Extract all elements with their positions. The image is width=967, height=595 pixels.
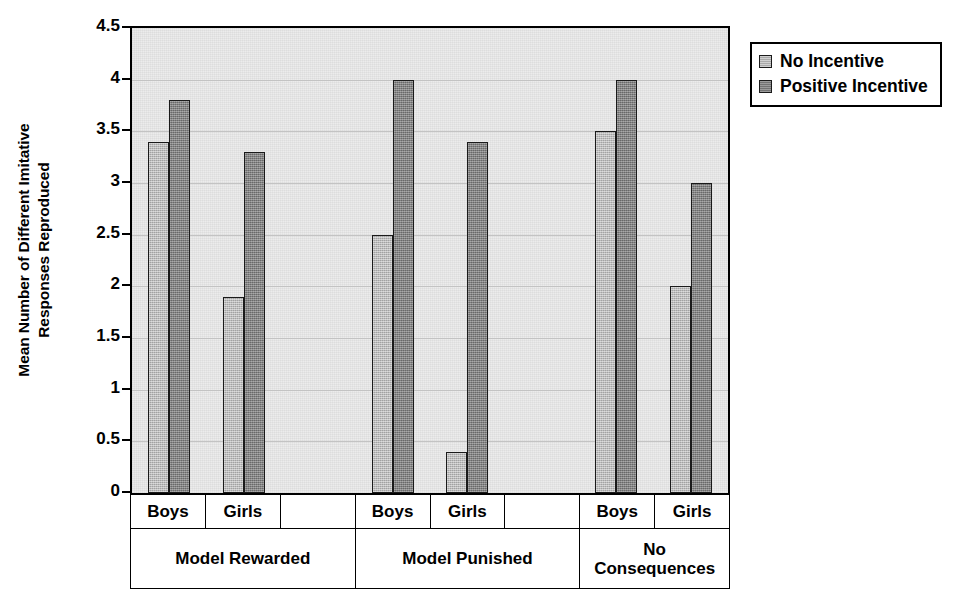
gridline (132, 131, 728, 132)
y-axis-tick-label: 2.5 (76, 223, 120, 243)
y-axis-tick-mark (122, 129, 130, 131)
bar (446, 452, 467, 493)
y-axis-tick-label: 3.5 (76, 119, 120, 139)
x-axis-spacer-cell (280, 494, 355, 529)
y-axis-title-line-1: Mean Number of Different Imitative (15, 123, 32, 376)
x-axis-subcategory-row: BoysGirlsBoysGirlsBoysGirls (131, 494, 730, 529)
x-axis-category-table: BoysGirlsBoysGirlsBoysGirls Model Reward… (130, 493, 730, 589)
y-axis-tick-mark (122, 491, 130, 493)
y-axis-tick-label: 1.5 (76, 326, 120, 346)
x-axis-group-cell: NoConsequences (580, 529, 730, 589)
x-axis-subcategory-cell: Boys (580, 494, 655, 529)
bar (691, 183, 712, 493)
y-axis-tick-label: 3 (76, 171, 120, 191)
bar (244, 152, 265, 493)
y-axis-tick-mark (122, 336, 130, 338)
bar (223, 297, 244, 493)
y-axis-tick-labels: 4.543.532.521.510.50 (76, 0, 120, 595)
legend-swatch-icon-no-incentive (759, 55, 772, 68)
gridline (132, 338, 728, 339)
y-axis-tick-label: 4.5 (76, 16, 120, 36)
legend-item-positive-incentive: Positive Incentive (759, 74, 928, 99)
x-axis-subcategory-cell: Girls (205, 494, 280, 529)
y-axis-tick-label: 2 (76, 274, 120, 294)
bar (616, 80, 637, 493)
x-axis-spacer-cell (505, 494, 580, 529)
legend-label-no-incentive: No Incentive (780, 51, 884, 72)
bar-chart-figure: Mean Number of Different Imitative Respo… (0, 0, 967, 595)
bar (169, 100, 190, 493)
y-axis-tick-label: 1 (76, 378, 120, 398)
gridline (132, 235, 728, 236)
y-axis-tick-mark (122, 78, 130, 80)
plot-area (130, 26, 730, 495)
y-axis-tick-label: 0.5 (76, 429, 120, 449)
x-axis-group-label-line-1: No (580, 540, 729, 559)
x-axis-subcategory-cell: Girls (430, 494, 505, 529)
bar (595, 131, 616, 493)
bar (393, 80, 414, 493)
legend-item-no-incentive: No Incentive (759, 49, 928, 74)
y-axis-tick-mark (122, 233, 130, 235)
y-axis-tick-mark (122, 388, 130, 390)
chart-legend: No Incentive Positive Incentive (750, 42, 942, 107)
gridline (132, 286, 728, 287)
gridline (132, 80, 728, 81)
x-axis-group-cell: Model Punished (355, 529, 580, 589)
x-axis-group-cell: Model Rewarded (131, 529, 356, 589)
gridline (132, 441, 728, 442)
x-axis-subcategory-cell: Boys (355, 494, 430, 529)
y-axis-title: Mean Number of Different Imitative Respo… (0, 0, 62, 500)
bar (372, 235, 393, 493)
y-axis-tick-mark (122, 181, 130, 183)
bar (467, 142, 488, 493)
x-axis-group-label-line-2: Consequences (580, 559, 729, 578)
y-axis-tick-label: 0 (76, 481, 120, 501)
x-axis-subcategory-cell: Girls (655, 494, 730, 529)
y-axis-tick-mark (122, 284, 130, 286)
legend-swatch-icon-positive-incentive (759, 80, 772, 93)
bar (670, 286, 691, 493)
gridline (132, 183, 728, 184)
x-axis-subcategory-cell: Boys (131, 494, 206, 529)
gridline (132, 390, 728, 391)
y-axis-title-line-2: Responses Reproduced (34, 40, 54, 460)
y-axis-tick-label: 4 (76, 68, 120, 88)
y-axis-tick-mark (122, 439, 130, 441)
x-axis-group-row: Model RewardedModel PunishedNoConsequenc… (131, 529, 730, 589)
legend-label-positive-incentive: Positive Incentive (780, 76, 928, 97)
y-axis-tick-mark (122, 26, 130, 28)
bar (148, 142, 169, 493)
